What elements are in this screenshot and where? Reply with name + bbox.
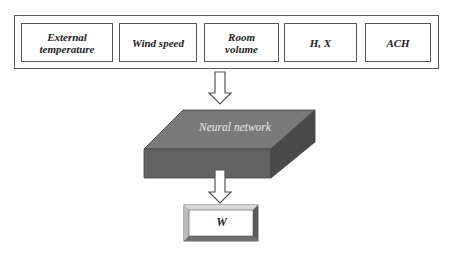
neural-network-label: Neural network [190, 121, 280, 133]
output-label: W [184, 215, 259, 230]
down-arrow-icon [209, 72, 231, 104]
slab-front-face [144, 149, 271, 178]
